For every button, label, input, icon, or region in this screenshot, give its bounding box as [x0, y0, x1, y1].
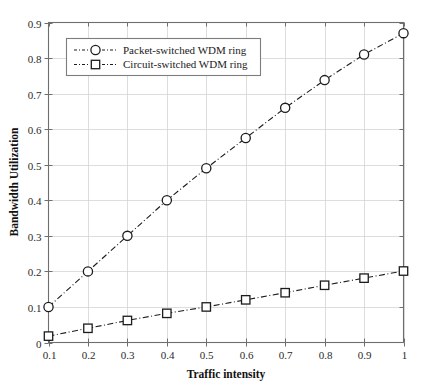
circle-marker-icon — [83, 267, 92, 276]
x-tick-label: 1 — [402, 349, 408, 361]
x-tick-label: 0.7 — [279, 349, 293, 361]
circle-marker-icon — [241, 133, 250, 142]
circle-marker-icon — [123, 231, 132, 240]
circle-marker-icon — [162, 196, 171, 205]
circle-marker-icon — [281, 103, 290, 112]
y-axis-title: Bandwidth Utilization — [8, 127, 20, 237]
square-marker-icon — [320, 281, 328, 289]
circle-marker-icon — [202, 164, 211, 173]
circle-marker-icon — [320, 76, 329, 85]
circle-marker-icon — [359, 50, 368, 59]
legend-label-circuit-switched: Circuit-switched WDM ring — [123, 58, 248, 70]
circle-marker-icon — [44, 302, 53, 311]
square-marker-icon — [399, 267, 407, 275]
x-tick-label: 0.8 — [319, 349, 333, 361]
circle-marker-icon — [91, 45, 100, 54]
y-tick-label: 0.6 — [28, 124, 42, 136]
chart-figure: 0.10.20.30.40.50.60.70.80.91 00.10.20.30… — [0, 0, 424, 388]
x-tick-label: 0.1 — [43, 349, 57, 361]
square-marker-icon — [281, 289, 289, 297]
square-marker-icon — [242, 296, 250, 304]
plot-canvas: 0.10.20.30.40.50.60.70.80.91 00.10.20.30… — [0, 0, 424, 388]
y-tick-label: 0 — [36, 338, 42, 350]
x-tick-label: 0.3 — [121, 349, 135, 361]
y-tick-label: 0.7 — [28, 89, 42, 101]
square-marker-icon — [84, 324, 92, 332]
chart-legend: Packet-switched WDM ring Circuit-switche… — [67, 39, 261, 76]
x-tick-label: 0.2 — [82, 349, 96, 361]
x-tick-label: 0.9 — [358, 349, 372, 361]
y-tick-label: 0.9 — [28, 18, 42, 30]
x-tick-label: 0.5 — [200, 349, 214, 361]
square-marker-icon — [202, 303, 210, 311]
y-tick-label: 0.8 — [28, 53, 42, 65]
circle-marker-icon — [399, 29, 408, 38]
square-marker-icon — [91, 60, 99, 68]
x-axis-title: Traffic intensity — [187, 368, 266, 381]
y-tick-label: 0.1 — [28, 302, 42, 314]
square-marker-icon — [44, 332, 52, 340]
y-tick-label: 0.5 — [28, 160, 42, 172]
legend-label-packet-switched: Packet-switched WDM ring — [123, 44, 247, 56]
legend-entry-circuit-switched: Circuit-switched WDM ring — [74, 58, 248, 70]
square-marker-icon — [163, 309, 171, 317]
x-tick-label: 0.6 — [240, 349, 254, 361]
y-tick-label: 0.4 — [28, 195, 42, 207]
x-tick-label: 0.4 — [161, 349, 175, 361]
y-tick-label: 0.3 — [28, 231, 42, 243]
square-marker-icon — [123, 316, 131, 324]
y-tick-label: 0.2 — [28, 266, 42, 278]
square-marker-icon — [360, 274, 368, 282]
